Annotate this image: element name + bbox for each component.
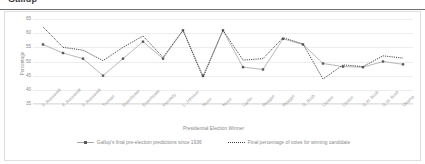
y-tick-label: 40	[26, 88, 31, 93]
x-axis-ticks: F. RooseveltF. RooseveltF. RooseveltTrum…	[33, 105, 413, 137]
solid-line-marker-icon	[77, 140, 94, 145]
data-point-marker	[162, 57, 164, 59]
chart-screenshot: Gallup Percentage 65605550454035 F. Roos…	[0, 0, 425, 164]
header-divider	[0, 9, 425, 10]
y-tick-label: 35	[26, 102, 31, 107]
chart-container: Percentage 65605550454035 F. RooseveltF.…	[4, 11, 421, 161]
cropped-title-text: Gallup	[8, 0, 37, 4]
y-tick-label: 55	[26, 45, 31, 50]
data-point-marker	[382, 60, 384, 62]
series-line-1	[43, 27, 403, 79]
data-point-marker	[102, 74, 104, 76]
dotted-line-icon	[228, 140, 245, 145]
cropped-title-band: Gallup	[0, 0, 425, 9]
data-point-marker	[42, 43, 44, 45]
y-tick-label: 50	[26, 59, 31, 64]
data-point-marker	[142, 40, 144, 42]
data-point-marker	[402, 63, 404, 65]
data-point-marker	[82, 57, 84, 59]
legend-label: Gallup's final pre-election predictions …	[97, 140, 202, 145]
y-tick-label: 60	[26, 31, 31, 36]
series-layer	[33, 19, 413, 104]
data-point-marker	[122, 57, 124, 59]
data-point-marker	[62, 52, 64, 54]
y-axis-ticks: 65605550454035	[19, 19, 31, 104]
legend-item-final-vote[interactable]: Final percentage of votes for winning ca…	[228, 140, 351, 145]
series-line-0	[43, 30, 403, 75]
legend-item-gallup-predictions[interactable]: Gallup's final pre-election predictions …	[77, 140, 202, 145]
x-axis-title: Presidential Election Winner	[5, 126, 422, 131]
legend-label: Final percentage of votes for winning ca…	[248, 140, 351, 145]
data-point-marker	[242, 66, 244, 68]
data-point-marker	[322, 62, 324, 64]
y-tick-label: 45	[26, 73, 31, 78]
data-point-marker	[262, 68, 264, 70]
chart-legend: Gallup's final pre-election predictions …	[5, 140, 422, 145]
y-tick-label: 65	[26, 17, 31, 22]
